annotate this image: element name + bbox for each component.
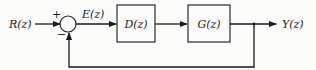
- input-label: R(z): [8, 18, 32, 31]
- error-label: E(z): [81, 8, 104, 21]
- controller-label: D(z): [123, 18, 147, 31]
- plant-label: G(z): [197, 18, 220, 31]
- plus-sign: +: [52, 8, 61, 21]
- feedback-path: [69, 24, 254, 67]
- output-label: Y(z): [282, 18, 304, 31]
- block-diagram: R(z) + − E(z) D(z) G(z) Y(z): [0, 0, 316, 70]
- minus-sign: −: [57, 28, 66, 41]
